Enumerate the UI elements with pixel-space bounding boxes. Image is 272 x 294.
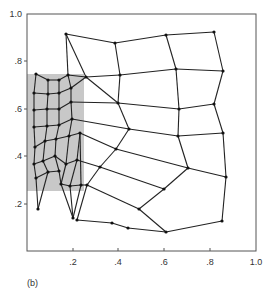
mesh-node — [176, 134, 179, 137]
mesh-edge — [223, 133, 226, 177]
mesh-node — [84, 75, 87, 78]
mesh-node — [78, 131, 81, 134]
mesh-node — [36, 207, 39, 210]
mesh-edge — [178, 136, 188, 168]
mesh-edge — [128, 228, 166, 232]
mesh-edge — [139, 209, 166, 232]
mesh-edge — [86, 77, 118, 103]
mesh-node — [66, 73, 69, 76]
mesh-node — [71, 216, 74, 219]
mesh-node — [57, 169, 60, 172]
x-tick-label: .8 — [206, 257, 214, 267]
mesh-node — [34, 72, 37, 75]
x-tick-label: .6 — [160, 257, 168, 267]
mesh-node — [137, 207, 140, 210]
mesh-edge — [116, 149, 188, 168]
mesh-node — [118, 73, 121, 76]
mesh-edge — [166, 35, 176, 69]
mesh-node — [32, 108, 35, 111]
mesh-edge — [116, 129, 129, 149]
mesh-edge — [66, 34, 68, 75]
mesh-edge — [214, 32, 223, 71]
mesh-node — [64, 162, 67, 165]
mesh-node — [68, 184, 71, 187]
mesh-node — [59, 182, 62, 185]
y-tick-label: .6 — [14, 104, 22, 114]
mesh-node — [64, 32, 67, 35]
mesh-edge — [178, 133, 223, 136]
x-tick-label: 1.0 — [250, 257, 263, 267]
mesh-node — [32, 162, 35, 165]
mesh-node — [32, 125, 35, 128]
mesh-edge — [66, 34, 115, 43]
mesh-node — [75, 158, 78, 161]
mesh-node — [34, 176, 37, 179]
mesh-node — [41, 159, 44, 162]
mesh-node — [33, 145, 36, 148]
mesh-edge — [77, 220, 112, 223]
mesh-edge — [176, 69, 179, 109]
mesh-edge — [66, 34, 86, 77]
mesh-edge — [129, 129, 178, 136]
mesh-node — [186, 166, 189, 169]
mesh-edge — [178, 109, 179, 136]
mesh-node — [32, 91, 35, 94]
mesh-edge — [115, 43, 120, 75]
mesh-node — [46, 78, 49, 81]
mesh-edge — [86, 75, 120, 77]
mesh-edge — [80, 133, 116, 149]
mesh-node — [220, 219, 223, 222]
mesh-edge — [100, 167, 164, 189]
mesh-node — [114, 147, 117, 150]
mesh-edge — [118, 103, 179, 109]
mesh-edge — [166, 32, 214, 35]
mesh-node — [67, 134, 70, 137]
mesh-edge — [118, 103, 129, 129]
y-axis-ticks: 1.0.8.6.4.2 — [9, 9, 27, 209]
mesh-node — [110, 221, 113, 224]
mesh-node — [221, 69, 224, 72]
y-tick-label: 1.0 — [9, 9, 22, 19]
mesh-node — [57, 78, 60, 81]
mesh-node — [116, 101, 119, 104]
mesh-node — [53, 154, 56, 157]
mesh-edge — [118, 75, 120, 103]
x-tick-label: .2 — [69, 257, 77, 267]
mesh-edge — [222, 177, 226, 221]
x-tick-label: .4 — [114, 257, 122, 267]
mesh-node — [75, 218, 78, 221]
mesh-edge — [176, 69, 223, 71]
mesh-node — [164, 33, 167, 36]
mesh-node — [43, 139, 46, 142]
mesh-edge — [214, 71, 223, 104]
mesh-node — [46, 170, 49, 173]
mesh-edge — [188, 168, 226, 177]
mesh-node — [57, 91, 60, 94]
mesh-node — [45, 124, 48, 127]
mesh-node — [212, 30, 215, 33]
mesh-node — [57, 123, 60, 126]
mesh-edge — [100, 149, 116, 167]
mesh-node — [126, 226, 129, 229]
mesh-node — [54, 137, 57, 140]
mesh-node — [98, 165, 101, 168]
y-tick-label: .4 — [14, 151, 22, 161]
mesh-edge — [87, 185, 139, 209]
mesh-edge — [179, 104, 214, 109]
mesh-node — [70, 117, 73, 120]
mesh-node — [221, 131, 224, 134]
mesh-node — [224, 175, 227, 178]
mesh-edge — [87, 167, 100, 185]
mesh-node — [79, 183, 82, 186]
mesh-node — [113, 41, 116, 44]
mesh-node — [45, 107, 48, 110]
mesh-edge — [112, 223, 128, 228]
mesh-edge — [120, 69, 176, 75]
mesh-node — [127, 127, 130, 130]
mesh-node — [46, 92, 49, 95]
mesh-node — [162, 187, 165, 190]
y-tick-label: .8 — [14, 56, 22, 66]
mesh-edge — [164, 168, 188, 189]
mesh-edge — [166, 221, 222, 232]
mesh-node — [212, 102, 215, 105]
